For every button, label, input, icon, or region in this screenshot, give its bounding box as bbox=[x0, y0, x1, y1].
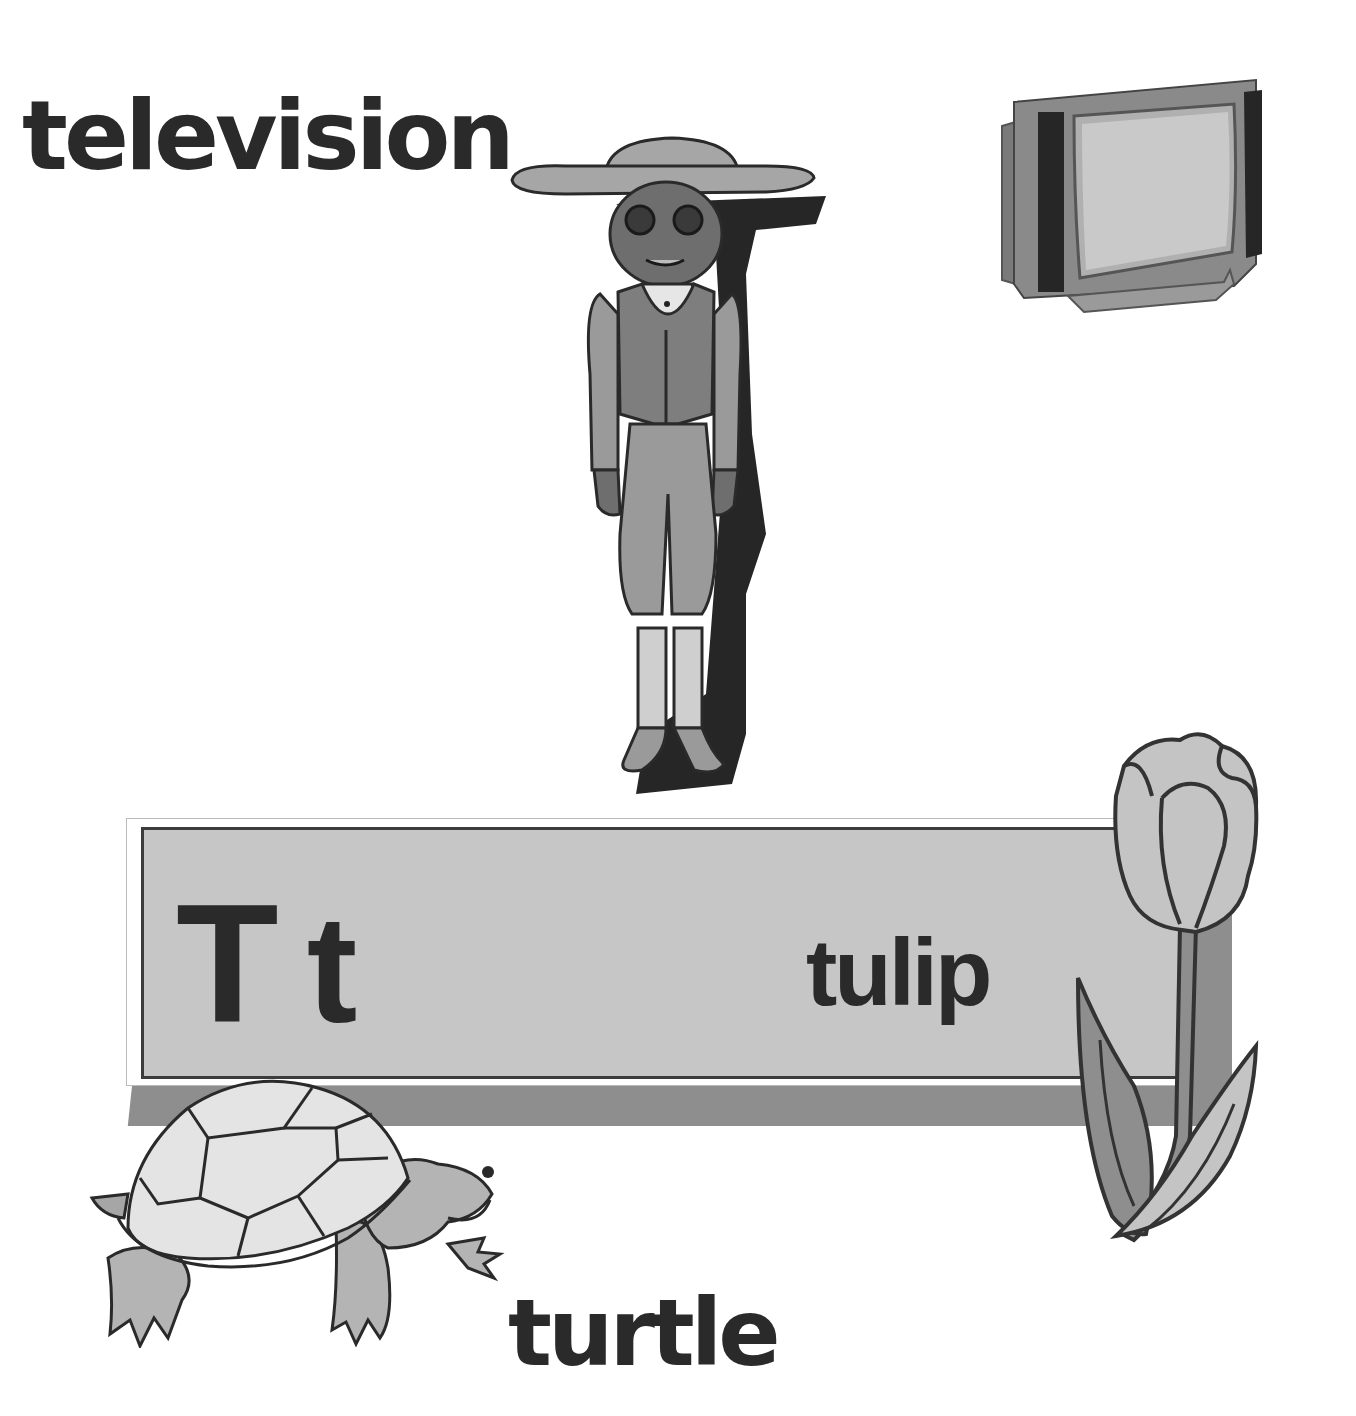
tulip-illustration bbox=[1072, 716, 1268, 1250]
letter-lowercase: t bbox=[307, 884, 358, 1054]
word-turtle: turtle bbox=[508, 1288, 777, 1380]
television-illustration bbox=[994, 74, 1266, 318]
word-tulip: tulip bbox=[806, 926, 989, 1020]
letter-uppercase: T bbox=[176, 870, 279, 1058]
boy-illustration bbox=[506, 134, 836, 798]
word-television: television bbox=[22, 88, 511, 184]
letter-pair: Tt bbox=[176, 880, 357, 1048]
turtle-illustration bbox=[88, 1068, 538, 1348]
